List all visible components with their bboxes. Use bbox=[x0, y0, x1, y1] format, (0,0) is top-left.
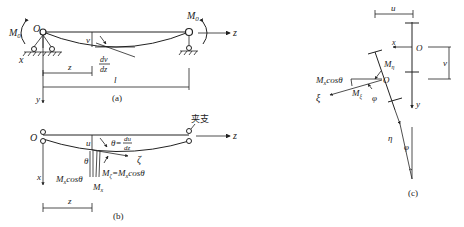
figure-c: u y x O v Mη O Mxcosθ ξ Mξ φ η bbox=[315, 3, 451, 198]
eta-axis-arrow bbox=[395, 110, 400, 124]
diagram-canvas: z M0 M0 O x v dv dz y z l (a) bbox=[0, 0, 464, 227]
label-dim-l: l bbox=[114, 75, 117, 85]
label-origin-c-bottom: O bbox=[383, 75, 390, 85]
label-y-axis-a: y bbox=[35, 94, 40, 104]
figure-b: O 夹支 z x u θ= du dz ζ θ Mxcosθ Mζ=Mxcosθ… bbox=[30, 113, 237, 221]
caption-c: (c) bbox=[408, 188, 418, 198]
beam-deflected bbox=[43, 32, 189, 47]
label-z-axis: z bbox=[232, 27, 237, 38]
label-x-axis-a: x bbox=[18, 54, 24, 65]
label-slope-den-a: dz bbox=[100, 65, 108, 74]
label-mx-cos-c: Mxcosθ bbox=[315, 75, 343, 86]
label-x-axis-b: x bbox=[36, 172, 41, 182]
label-zeta: ζ bbox=[137, 154, 142, 166]
figure-a: z M0 M0 O x v dv dz y z l (a) bbox=[8, 10, 237, 104]
label-origin-c-top: O bbox=[416, 43, 423, 53]
caption-b: (b) bbox=[113, 211, 124, 221]
label-xi: ξ bbox=[316, 92, 321, 104]
label-moment-right: M0 bbox=[186, 10, 199, 23]
label-m-eta: Mη bbox=[383, 59, 395, 70]
label-dim-z-b: z bbox=[67, 196, 72, 206]
label-m-xi: Mξ bbox=[351, 88, 363, 100]
label-theta-eq: θ= bbox=[111, 138, 122, 148]
label-deflection-v: v bbox=[86, 35, 90, 45]
label-z-axis-b: z bbox=[232, 130, 237, 141]
label-origin-a: O bbox=[33, 23, 40, 34]
label-eta: η bbox=[388, 133, 393, 143]
label-phi-2: φ bbox=[404, 142, 409, 152]
label-slope-den-b: dz bbox=[124, 144, 131, 152]
label-mx-cos-b: Mxcosθ bbox=[55, 174, 83, 185]
label-deflection-u: u bbox=[86, 138, 91, 148]
label-x-axis-c: x bbox=[391, 38, 396, 47]
label-theta-b: θ bbox=[84, 156, 89, 166]
label-moment-left: M0 bbox=[8, 27, 21, 40]
label-dim-u: u bbox=[391, 3, 396, 13]
moment-left-arrow bbox=[21, 22, 25, 44]
label-mzeta: Mζ=Mxcosθ bbox=[101, 168, 145, 180]
label-slope-num-b: du bbox=[124, 135, 132, 143]
caption-a: (a) bbox=[112, 93, 122, 103]
right-pin-icon bbox=[186, 29, 193, 36]
label-clamped-support: 夹支 bbox=[191, 113, 209, 124]
label-phi: φ bbox=[372, 93, 377, 103]
label-dim-v: v bbox=[443, 58, 447, 68]
label-slope-num-a: dv bbox=[100, 55, 108, 64]
left-pin-icon bbox=[40, 29, 46, 35]
label-y-axis-c: y bbox=[415, 99, 420, 109]
label-origin-b: O bbox=[30, 132, 37, 143]
label-dim-z-a: z bbox=[67, 62, 72, 72]
label-mx-b: Mx bbox=[92, 182, 104, 193]
